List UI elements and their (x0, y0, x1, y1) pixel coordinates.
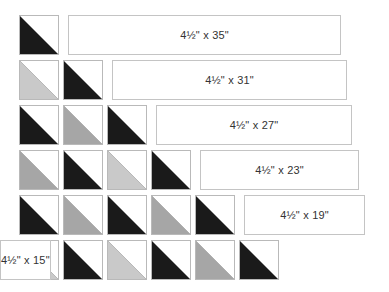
strip-size-label-box: 4½" x 23" (200, 150, 359, 190)
strip-size-label: 4½" x 27" (230, 119, 279, 131)
triangle-icon (64, 61, 102, 99)
strip-size-label: 4½" x 23" (255, 164, 304, 176)
triangle-icon (20, 61, 58, 99)
half-square-triangle-black (19, 15, 59, 55)
triangle-icon (240, 241, 278, 279)
triangle-icon (108, 196, 146, 234)
half-square-triangle-medium (151, 195, 191, 235)
strip-size-label-box: 4½" x 27" (156, 105, 352, 145)
strip-size-label-box: 4½" x 15" (0, 240, 51, 280)
half-square-triangle-black (63, 150, 103, 190)
triangle-icon (152, 151, 190, 189)
half-square-triangle-black (107, 105, 147, 145)
triangle-icon (64, 106, 102, 144)
triangle-icon (108, 106, 146, 144)
triangle-icon (196, 196, 234, 234)
half-square-triangle-black (151, 150, 191, 190)
half-square-triangle-medium (63, 195, 103, 235)
strip-size-label-box: 4½" x 31" (112, 60, 347, 100)
triangle-icon (20, 106, 58, 144)
triangle-icon (152, 196, 190, 234)
strip-size-label-box: 4½" x 19" (244, 195, 365, 235)
half-square-triangle-black (19, 195, 59, 235)
triangle-icon (196, 241, 234, 279)
half-square-triangle-black (239, 240, 279, 280)
strip-size-label: 4½" x 35" (180, 29, 229, 41)
half-square-triangle-black (195, 195, 235, 235)
triangle-icon (108, 241, 146, 279)
strip-size-label: 4½" x 15" (1, 254, 50, 266)
strip-size-label: 4½" x 31" (205, 74, 254, 86)
half-square-triangle-medium (63, 105, 103, 145)
triangle-icon (152, 241, 190, 279)
half-square-triangle-medium (195, 240, 235, 280)
triangle-icon (20, 16, 58, 54)
triangle-icon (64, 151, 102, 189)
triangle-icon (20, 196, 58, 234)
half-square-triangle-black (19, 105, 59, 145)
half-square-triangle-black (107, 195, 147, 235)
triangle-icon (64, 196, 102, 234)
half-square-triangle-light (19, 60, 59, 100)
half-square-triangle-black (63, 240, 103, 280)
triangle-icon (64, 241, 102, 279)
half-square-triangle-light (107, 150, 147, 190)
half-square-triangle-black (151, 240, 191, 280)
strip-size-label-box: 4½" x 35" (68, 15, 341, 55)
strip-size-label: 4½" x 19" (280, 209, 329, 221)
half-square-triangle-black (63, 60, 103, 100)
triangle-icon (20, 151, 58, 189)
half-square-triangle-medium (19, 150, 59, 190)
triangle-icon (108, 151, 146, 189)
half-square-triangle-light (107, 240, 147, 280)
